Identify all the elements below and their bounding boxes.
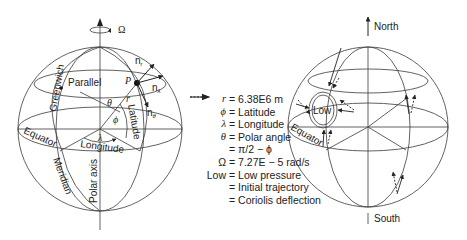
legend-text: = Latitude [229,106,275,119]
theta-label: θ [107,97,112,108]
legend-text: = π/2 − ϕ [229,143,272,156]
legend-row-coriolis: = Coriolis deflection [188,194,321,207]
legend-text: = Coriolis deflection [229,194,321,207]
legend-row-phi: ϕ= Latitude [188,106,321,119]
legend-symbol: λ [188,118,229,131]
latitude-label: Latitude [126,103,143,140]
legend-text: = Initial trajectory [229,181,309,194]
legend-row-low: Low= Low pressure [188,169,321,182]
axis-arrow-icon [97,18,103,26]
n-theta-label: nθ [147,107,157,119]
radial-line [368,127,406,150]
greenwich-label: Greenwich [47,63,66,112]
legend-text: = Low pressure [229,169,301,182]
legend-symbol: Ω [188,156,229,169]
r-label: r [126,93,130,104]
dotted-arrow-icon [411,95,415,113]
solid-arrow-icon [338,110,354,112]
dotted-arrow-icon [328,130,331,144]
longitude-label: Longitude [80,138,125,155]
radial-line [326,127,368,150]
legend: r= 6.38E6 m ϕ= Latitude λ= Longitude θ= … [188,93,321,206]
dotted-arrow-icon [340,100,354,110]
radial-line [368,98,407,127]
n-r-label: nr [135,55,144,67]
point-p-label: P [124,75,131,86]
n-r-arrow-icon [137,64,154,83]
legend-symbol: ϕ [188,106,229,119]
latitude-arc [120,104,127,138]
solid-arrow-icon [188,181,229,194]
legend-row-theta-eq: = π/2 − ϕ [188,143,321,156]
legend-symbol: θ [188,131,229,144]
dotted-arrow-icon [188,194,229,207]
legend-text: = 7.27E − 5 rad/s [229,156,310,169]
south-label: South [374,213,400,224]
solid-arrow-icon [397,175,403,194]
equator-label: Equator [22,125,59,150]
polar-axis-label: Polar axis [88,159,99,203]
legend-text: = Longitude [229,118,284,131]
legend-row-omega: Ω= 7.27E − 5 rad/s [188,156,321,169]
n-lambda-label: nλ [152,82,161,94]
north-label: North [374,21,398,32]
left-globe: Ω Parallel Greenwich P nr nλ nθ θ ϕ r L [18,18,182,230]
n-lambda-arrow-icon [137,76,163,83]
legend-row-lambda: λ= Longitude [188,118,321,131]
legend-text: = Polar angle [229,131,291,144]
legend-row-initial: = Initial trajectory [188,181,321,194]
meridian-label: Meridian [51,156,74,196]
legend-text: = 6.38E6 m [229,93,283,106]
omega-label: Ω [118,24,125,35]
phi-label: ϕ [113,114,118,125]
parallel-label: Parallel [68,77,101,88]
legend-symbol: Low [188,169,229,182]
legend-symbol [188,143,229,156]
legend-row-theta: θ= Polar angle [188,131,321,144]
